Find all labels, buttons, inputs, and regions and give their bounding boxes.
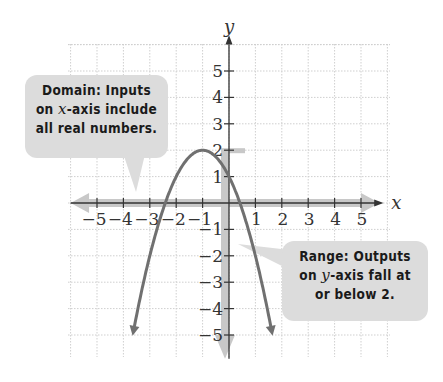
x-axis-arrow-icon [374,200,383,207]
curve-arrow-icon [130,325,140,336]
domain-callout: Domain: Inputs on x-axis include all rea… [25,75,168,158]
y-tick-label: −4 [198,299,223,319]
x-tick-label: 2 [277,209,288,229]
y-tick-label: 1 [212,167,223,187]
domain-line-3: all real numbers. [25,119,168,138]
x-axis-label: x [391,192,401,213]
x-tick-label: −5 [81,209,106,229]
y-tick-label: 3 [212,114,223,134]
y-axis-label: y [223,16,235,37]
graph-figure: −5−4−3−2−112345−5−4−3−2−112345xy Domain:… [0,0,443,382]
range-callout: Range: Outputs on y-axis fall at or belo… [282,241,428,321]
domain-line-2: on x-axis include [25,100,168,119]
y-tick-label: −2 [198,246,223,266]
range-line-1: Range: Outputs [282,247,428,266]
x-tick-label: 5 [357,209,368,229]
domain-line-1: Domain: Inputs [25,81,168,100]
x-tick-label: 3 [304,209,315,229]
coordinate-plane: −5−4−3−2−112345−5−4−3−2−112345xy [0,0,443,382]
y-tick-label: −3 [198,272,223,292]
x-tick-label: 1 [251,209,262,229]
y-tick-label: −1 [198,219,223,239]
x-tick-label: −4 [108,209,133,229]
y-tick-label: −5 [198,325,223,345]
y-axis-arrow-icon [226,35,233,44]
range-line-2: on y-axis fall at [282,266,428,285]
curve-arrow-icon [266,325,276,336]
x-tick-label: 4 [330,209,341,229]
y-tick-label: 4 [212,87,223,107]
y-tick-label: 5 [212,61,223,81]
range-line-3: or below 2. [282,285,428,304]
x-tick-label: −3 [134,209,159,229]
x-tick-label: −2 [161,209,186,229]
